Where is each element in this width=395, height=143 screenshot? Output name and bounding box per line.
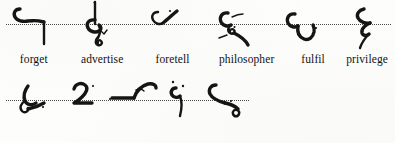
outline-group-row-2 bbox=[0, 70, 395, 143]
shorthand-outline-forget bbox=[10, 2, 64, 48]
label-group-row-1: forget advertise foretell philosopher fu… bbox=[0, 52, 395, 66]
word-label-advertise: advertise bbox=[66, 52, 139, 66]
shorthand-outline-verbose bbox=[204, 80, 252, 120]
shorthand-exercise-page: forget advertise foretell philosopher fu… bbox=[0, 0, 395, 143]
word-label-fulfil: fulfil bbox=[287, 52, 339, 66]
word-label-privilege: privilege bbox=[339, 52, 395, 66]
shorthand-outline-advertise bbox=[78, 0, 120, 52]
shorthand-row-2: chivalry shellac calomel average verbose bbox=[0, 70, 395, 143]
word-label-foretell: foretell bbox=[139, 52, 206, 66]
shorthand-outline-philosopher bbox=[214, 5, 268, 51]
shorthand-outline-fulfil bbox=[282, 8, 330, 46]
shorthand-outline-average bbox=[163, 78, 201, 120]
word-label-philosopher: philosopher bbox=[206, 52, 287, 66]
shorthand-outline-foretell bbox=[146, 6, 190, 38]
shorthand-outline-shellac bbox=[68, 80, 108, 110]
shorthand-row-1: forget advertise foretell philosopher fu… bbox=[0, 0, 395, 72]
word-label-forget: forget bbox=[2, 52, 66, 66]
shorthand-outline-chivalry bbox=[12, 82, 60, 122]
shorthand-outline-calomel bbox=[108, 76, 162, 110]
shorthand-outline-privilege bbox=[344, 4, 388, 52]
